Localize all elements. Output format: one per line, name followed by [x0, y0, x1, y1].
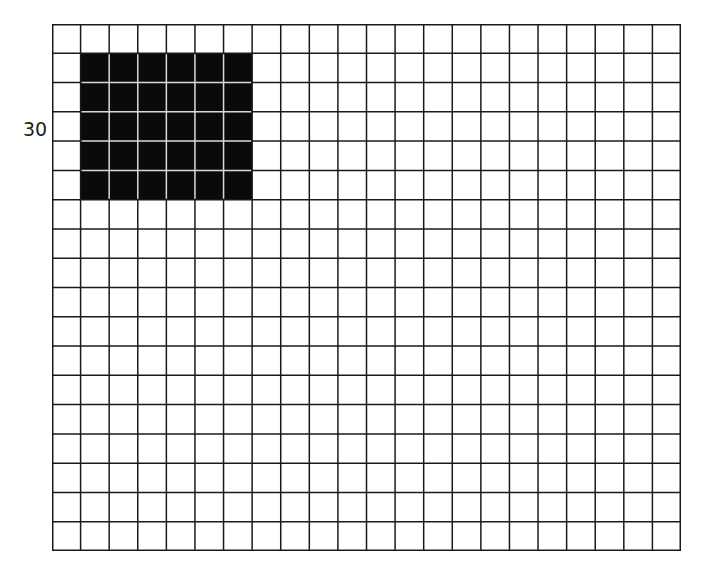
number-label: 30 [23, 118, 47, 140]
square-grid [52, 24, 681, 551]
